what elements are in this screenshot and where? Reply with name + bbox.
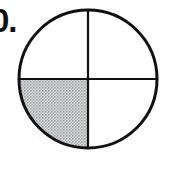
fraction-circle-figure: 0. (0, 0, 173, 170)
circle-diagram (0, 0, 173, 170)
quadrant-bottom-left-shaded (0, 79, 88, 170)
